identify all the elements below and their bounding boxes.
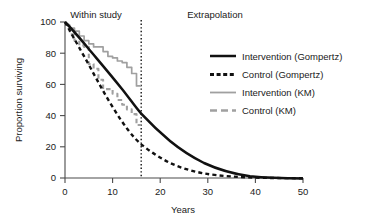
series-intervention-km — [65, 22, 141, 86]
y-axis-ticks — [60, 22, 65, 178]
series-control-km — [65, 22, 141, 125]
y-tick-label-80: 80 — [45, 48, 56, 59]
y-tick-label-40: 40 — [45, 110, 56, 121]
series-control-gompertz — [65, 22, 303, 178]
x-tick-label-30: 30 — [203, 186, 214, 197]
annotation-within-study: Within study — [70, 9, 122, 20]
y-tick-label-100: 100 — [40, 16, 56, 27]
chart-legend: Intervention (Gompertz) Control (Gompert… — [210, 51, 342, 117]
x-tick-label-20: 20 — [155, 186, 166, 197]
legend-label-control-km: Control (KM) — [242, 105, 296, 116]
x-tick-label-10: 10 — [107, 186, 118, 197]
series-intervention-gompertz — [65, 22, 303, 179]
legend-label-intervention-km: Intervention (KM) — [242, 87, 315, 98]
x-axis-tick-labels: 0 10 20 30 40 50 — [62, 186, 308, 197]
y-axis-tick-labels: 0 20 40 60 80 100 — [40, 16, 56, 183]
x-axis-title: Years — [171, 204, 195, 215]
x-tick-label-0: 0 — [62, 186, 67, 197]
x-tick-label-40: 40 — [250, 186, 261, 197]
y-tick-label-60: 60 — [45, 79, 56, 90]
y-axis-title: Proportion surviving — [13, 58, 24, 142]
y-tick-label-20: 20 — [45, 141, 56, 152]
y-tick-label-0: 0 — [51, 172, 56, 183]
annotation-extrapolation: Extrapolation — [187, 9, 242, 20]
legend-item-control-gompertz: Control (Gompertz) — [210, 69, 323, 80]
legend-item-intervention-gompertz: Intervention (Gompertz) — [210, 51, 342, 62]
legend-item-control-km: Control (KM) — [210, 105, 296, 116]
legend-label-control-gompertz: Control (Gompertz) — [242, 69, 323, 80]
x-tick-label-50: 50 — [298, 186, 309, 197]
legend-item-intervention-km: Intervention (KM) — [210, 87, 315, 98]
legend-label-intervention-gompertz: Intervention (Gompertz) — [242, 51, 342, 62]
survival-curve-chart: 0 20 40 60 80 100 0 10 20 30 40 50 Years… — [0, 0, 365, 222]
